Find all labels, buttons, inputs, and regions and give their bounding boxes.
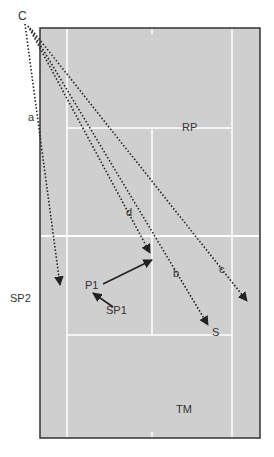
label-p1: P1 bbox=[85, 280, 98, 291]
label-c: c bbox=[219, 264, 225, 275]
tennis-court bbox=[40, 28, 260, 438]
label-d: d bbox=[126, 207, 132, 218]
label-a: a bbox=[28, 112, 34, 123]
label-sp2: SP2 bbox=[10, 293, 31, 304]
label-rp: RP bbox=[182, 122, 197, 133]
label-sp1: SP1 bbox=[106, 305, 127, 316]
label-tm: TM bbox=[176, 404, 192, 415]
court-diagram bbox=[0, 0, 274, 457]
label-coach: C bbox=[18, 10, 27, 22]
label-b: b bbox=[173, 268, 179, 279]
label-s: S bbox=[212, 327, 219, 338]
